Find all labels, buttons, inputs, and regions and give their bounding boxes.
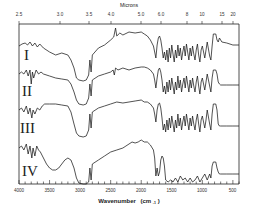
series-label-ii: II	[22, 83, 32, 99]
spectrum-iv	[19, 140, 239, 184]
bottom-tick-label: 1000	[197, 188, 208, 193]
top-tick-label: 3.0	[57, 12, 64, 17]
bottom-axis-title: Wavenumber (cm -1 )	[98, 198, 159, 205]
bottom-axis: 4000350030002500200015001000500 Wavenumb…	[14, 180, 239, 205]
top-tick-label: 10	[199, 12, 205, 17]
bottom-tick-label: 3000	[75, 188, 86, 193]
bottom-tick-label: 3500	[44, 188, 55, 193]
series-label-iii: III	[20, 120, 35, 136]
spectra-series	[19, 28, 239, 184]
top-tick-label: 2.5	[16, 12, 23, 17]
spectrum-iii	[19, 100, 239, 137]
bottom-tick-label: 2000	[136, 188, 147, 193]
series-label-iv: IV	[22, 163, 38, 179]
top-tick-label: 3.5	[86, 12, 93, 17]
bottom-axis-title-unit-sup: -1	[153, 201, 156, 205]
top-axis: Microns 2.53.03.54.05.06.08101520	[16, 2, 239, 24]
top-tick-label: 6.0	[158, 12, 165, 17]
bottom-axis-ticks: 4000350030002500200015001000500	[14, 180, 239, 193]
series-label-i: I	[24, 47, 29, 63]
top-tick-label: 5.0	[138, 12, 145, 17]
top-tick-label: 15	[219, 12, 225, 17]
top-tick-label: 4.0	[108, 12, 115, 17]
top-tick-label: 8	[186, 12, 189, 17]
bottom-tick-label: 2500	[105, 188, 116, 193]
bottom-tick-label: 4000	[14, 188, 25, 193]
bottom-tick-label: 500	[229, 188, 237, 193]
bottom-tick-label: 1500	[166, 188, 177, 193]
bottom-axis-title-unit-close: )	[158, 198, 160, 204]
spectrum-ii	[19, 67, 239, 105]
ir-spectra-chart: Microns 2.53.03.54.05.06.08101520 IIIIII…	[0, 0, 254, 211]
spectrum-i	[19, 28, 239, 81]
top-tick-label: 20	[230, 12, 236, 17]
top-axis-title: Microns	[120, 2, 139, 8]
bottom-axis-title-unit: (cm	[140, 198, 151, 204]
top-axis-ticks: 2.53.03.54.05.06.08101520	[16, 12, 236, 24]
bottom-axis-title-main: Wavenumber	[98, 198, 136, 204]
